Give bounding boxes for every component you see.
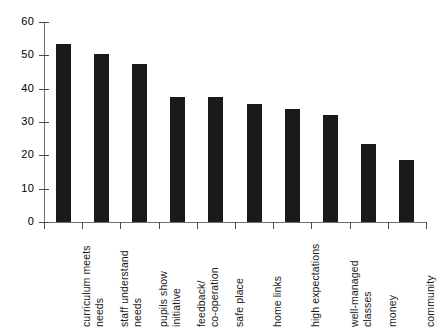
y-axis-tick-label: 0 [0,216,34,227]
bar [361,144,376,222]
x-axis-tick [311,222,312,229]
x-axis-label: curriculum meetsneeds [80,231,114,327]
y-axis-tick-label: 30 [0,116,34,127]
y-axis-tick-label: 60 [0,16,34,27]
x-axis-label: pupils showinitiative [157,231,191,327]
x-axis-label-line: staff understand [118,231,131,327]
x-axis-label-line: initiative [169,231,182,327]
x-axis-label-line: pupils show [157,231,170,327]
x-axis-label: community [424,231,442,327]
x-axis-tick [426,222,427,229]
x-axis-tick [235,222,236,229]
bar [56,44,71,222]
bar-chart: 0102030405060 curriculum meetsneedsstaff… [0,0,442,329]
x-axis-label-line: community [424,231,437,327]
x-axis-label: staff understandneeds [118,231,152,327]
x-axis-label: money [386,231,420,327]
x-axis-tick [273,222,274,229]
bar [94,54,109,222]
x-axis-label-line: curriculum meets [80,231,93,327]
bar [399,160,414,222]
y-axis-tick-label: 10 [0,183,34,194]
x-axis-label: feedback/co-operation [195,231,229,327]
y-axis-tick-label: 20 [0,149,34,160]
x-axis-label: well-managedclasses [348,231,382,327]
x-axis-tick [388,222,389,229]
bars-group [44,22,426,222]
x-axis-tick [82,222,83,229]
x-axis-label-line: money [386,231,399,327]
x-axis-label: safe place [233,231,267,327]
x-axis-label-line: well-managed [348,231,361,327]
x-axis-tick [120,222,121,229]
x-axis-label-line: home links [271,231,284,327]
x-axis-labels: curriculum meetsneedsstaff understandnee… [44,231,426,327]
x-axis-label-line: needs [131,231,144,327]
bar [285,109,300,222]
x-axis-label: high expectations [309,231,343,327]
x-axis-label-line: classes [360,231,373,327]
bar [132,64,147,222]
x-axis-label-line: needs [93,231,106,327]
bar [247,104,262,222]
x-axis-label-line: co-operation [207,231,220,327]
x-axis-tick [350,222,351,229]
x-axis-label-line: safe place [233,231,246,327]
x-axis-label-line: feedback/ [195,231,208,327]
y-axis-tick-label: 40 [0,83,34,94]
x-axis-label-line: high expectations [309,231,322,327]
y-axis-tick-label: 50 [0,49,34,60]
x-axis-label: home links [271,231,305,327]
bar [323,115,338,222]
x-axis-tick [197,222,198,229]
x-axis-tick [44,222,45,229]
x-axis-tick [159,222,160,229]
bar [170,97,185,222]
bar [208,97,223,222]
